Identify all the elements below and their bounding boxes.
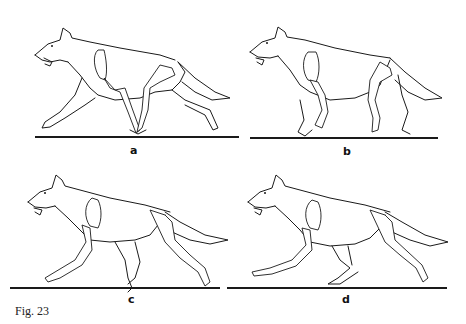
dog-drawing-b bbox=[230, 0, 466, 160]
panel-a: a bbox=[0, 0, 240, 160]
ground-line-a bbox=[35, 136, 239, 138]
panel-b: b bbox=[230, 0, 466, 160]
panel-d: d bbox=[230, 160, 466, 324]
panel-label-a: a bbox=[130, 145, 137, 156]
panel-label-c: c bbox=[128, 294, 135, 305]
panel-label-d: d bbox=[342, 294, 350, 305]
panel-c: c bbox=[0, 160, 240, 324]
panel-label-b: b bbox=[343, 146, 351, 157]
figure-caption: Fig. 23 bbox=[15, 304, 49, 319]
ground-line-d bbox=[227, 287, 447, 289]
dog-drawing-c bbox=[0, 160, 240, 324]
ground-line-c bbox=[10, 287, 220, 289]
ground-line-b bbox=[250, 137, 438, 139]
